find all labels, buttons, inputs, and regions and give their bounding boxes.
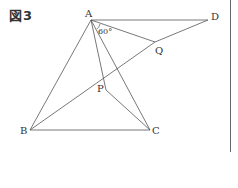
label-C: C (152, 125, 160, 136)
segment-BQ (30, 42, 155, 130)
segment-QD (155, 20, 208, 42)
angle-label: 60° (98, 27, 112, 36)
label-A: A (84, 8, 93, 19)
geometry-figure: 図3 A D Q P B C 60° (0, 0, 238, 188)
label-Q: Q (155, 45, 163, 56)
segment-AB (30, 20, 91, 130)
label-P: P (97, 83, 104, 94)
segment-PC (106, 90, 150, 130)
label-D: D (211, 11, 219, 22)
segment-AC (91, 20, 150, 130)
diagram-canvas: A D Q P B C 60° (0, 0, 238, 188)
label-B: B (20, 125, 27, 136)
